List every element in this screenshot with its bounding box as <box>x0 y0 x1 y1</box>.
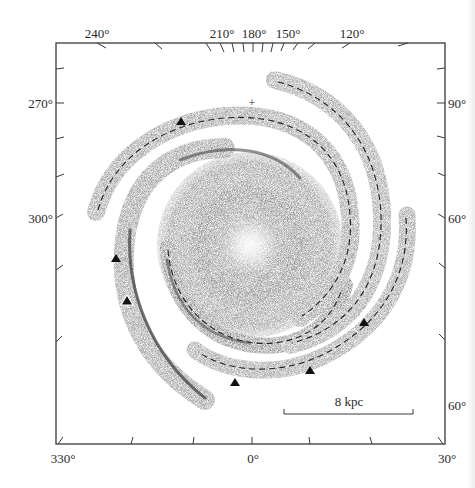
left-axis-labels: 270° 300° <box>28 96 53 226</box>
right-axis-labels: 90° 60° 60° <box>448 96 466 413</box>
scale-bar: 8 kpc <box>284 394 413 414</box>
galaxy-diagram: 240° 210° 180° 150° 120° 270° 300° 90° 6… <box>0 0 475 488</box>
label-30: 30° <box>438 451 456 466</box>
label-300: 300° <box>28 211 53 226</box>
label-0: 0° <box>247 451 259 466</box>
galaxy-disk <box>96 80 408 400</box>
triangle-marker <box>230 378 240 386</box>
label-240: 240° <box>85 26 110 41</box>
scale-bar-label: 8 kpc <box>335 394 364 409</box>
label-60-lower: 60° <box>448 398 466 413</box>
label-270: 270° <box>28 96 53 111</box>
label-180: 180° <box>242 26 267 41</box>
label-90: 90° <box>448 96 466 111</box>
bottom-axis-labels: 330° 0° 30° <box>51 451 456 466</box>
label-60-upper: 60° <box>448 211 466 226</box>
label-330: 330° <box>51 451 76 466</box>
label-150: 150° <box>276 26 301 41</box>
label-210: 210° <box>210 26 235 41</box>
top-axis-labels: 240° 210° 180° 150° 120° <box>85 26 365 41</box>
label-120: 120° <box>340 26 365 41</box>
sun-position-marker: + <box>249 96 256 110</box>
